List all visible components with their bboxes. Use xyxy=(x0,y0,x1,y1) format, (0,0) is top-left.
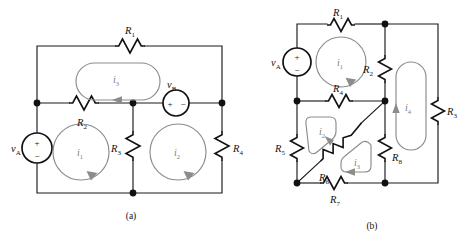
source-va-label: vA xyxy=(271,57,281,71)
resistor-r8-label: R8 xyxy=(391,152,402,166)
wire-diagonal-upper xyxy=(361,101,385,123)
node-right-mid xyxy=(219,100,226,107)
resistor-r4-zigzag xyxy=(215,131,229,161)
resistor-r5-zigzag xyxy=(291,134,304,162)
resistor-r4-label: R4 xyxy=(232,143,243,157)
resistor-r8-zigzag xyxy=(379,134,392,162)
source-vb-label: vB xyxy=(167,79,177,93)
resistor-r3-zigzag xyxy=(432,97,445,125)
source-vb-plus: + xyxy=(167,99,172,109)
panel-a-meshes xyxy=(53,63,206,181)
circuit-figure: + − + − R1 xyxy=(0,0,470,246)
source-va-minus: − xyxy=(34,151,39,161)
mesh-i4-label: i4 xyxy=(405,102,412,115)
resistor-r2-label: R2 xyxy=(362,64,373,78)
mesh-i1-label: i1 xyxy=(77,147,83,160)
panel-b-caption: (b) xyxy=(366,221,377,232)
mesh-i1-label: i1 xyxy=(337,57,343,70)
wire-top-to-right-rail xyxy=(385,24,438,97)
wire-va-to-bottom xyxy=(37,163,133,193)
panel-a-caption: (a) xyxy=(126,211,137,222)
resistor-r5-label: R5 xyxy=(274,143,285,157)
source-va-plus: + xyxy=(294,52,299,62)
panel-b-resistors xyxy=(291,19,445,190)
resistor-r3-label: R3 xyxy=(110,143,121,157)
node-bottom-center xyxy=(382,180,389,187)
mesh-i3-label: i3 xyxy=(113,74,119,87)
node-center-mid xyxy=(130,100,137,107)
source-va-minus: − xyxy=(294,65,299,75)
mesh-i4-loop xyxy=(396,62,426,150)
resistor-r3-zigzag xyxy=(126,131,140,161)
node-bottom-center xyxy=(130,190,137,197)
panel-a-wires xyxy=(37,46,222,193)
panel-a: + − + − R1 xyxy=(11,25,243,222)
node-left-mid xyxy=(294,98,301,105)
resistor-r6-zigzag xyxy=(321,123,362,161)
wire-top-left xyxy=(37,46,115,103)
mesh-i2-label: i2 xyxy=(319,126,325,139)
source-va-plus: + xyxy=(34,138,39,148)
wire-r4-to-bottom xyxy=(133,161,222,193)
wire-diagonal-lower xyxy=(297,161,321,183)
resistor-r3-label: R3 xyxy=(446,106,457,120)
panel-b-labels: R1 R2 R3 R4 R5 R6 R7 R8 xyxy=(271,7,457,232)
source-vb-minus: − xyxy=(180,99,185,109)
mesh-i2-label: i2 xyxy=(174,147,180,160)
panel-b-wires xyxy=(297,24,438,183)
node-bottom-left xyxy=(294,180,301,187)
circuit-diagram-svg: + − + − R1 xyxy=(0,0,470,246)
mesh-i3-arrow xyxy=(345,168,355,176)
panel-a-sources: + − + − xyxy=(22,90,189,163)
resistor-r1-label: R1 xyxy=(124,25,135,39)
resistor-r2-label: R2 xyxy=(76,117,87,131)
mesh-i3-label: i3 xyxy=(354,157,360,170)
resistor-r7-label: R7 xyxy=(329,194,340,208)
resistor-r1-zigzag xyxy=(115,39,145,53)
resistor-r4-label: R4 xyxy=(332,83,343,97)
panel-b: + − R1 xyxy=(271,7,457,232)
mesh-i4-arrow xyxy=(392,103,399,113)
resistor-r2-zigzag xyxy=(69,96,99,110)
source-va-label: vA xyxy=(11,143,21,157)
node-center-mid xyxy=(382,98,389,105)
resistor-r2-zigzag xyxy=(379,55,392,83)
panel-a-nodes xyxy=(34,100,226,197)
node-top-right xyxy=(382,21,389,28)
node-left-mid xyxy=(34,100,41,107)
panel-b-sources: + − xyxy=(283,48,311,76)
